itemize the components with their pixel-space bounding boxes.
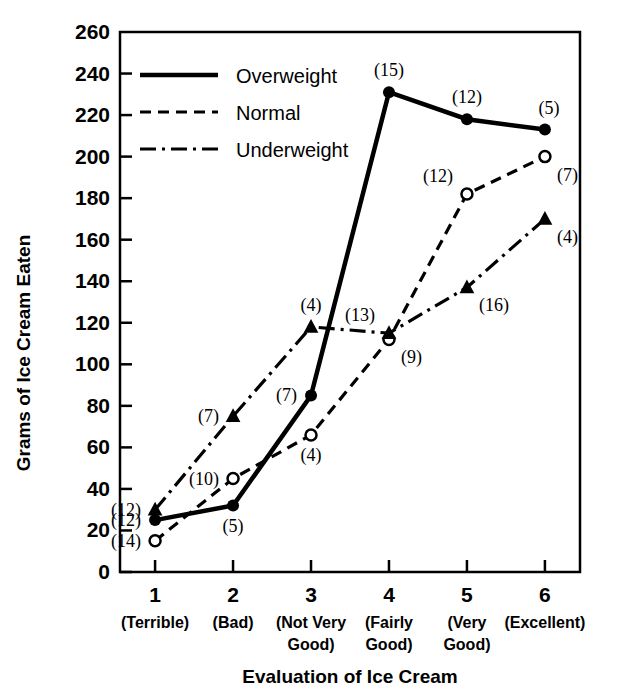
x-category-label: (Excellent) [504, 614, 585, 631]
data-point-label: (4) [557, 227, 578, 248]
y-tick-label: 40 [87, 477, 110, 500]
data-point-label: (5) [223, 516, 244, 537]
marker-open-circle [228, 473, 239, 484]
data-point-label: (16) [479, 295, 509, 316]
x-category-label: Good) [287, 636, 334, 653]
y-tick-label: 220 [75, 103, 110, 126]
x-axis-title: Evaluation of Ice Cream [242, 666, 457, 687]
legend-label-overweight: Overweight [236, 65, 338, 87]
legend-label-normal: Normal [236, 102, 300, 124]
x-category-label: Good) [365, 636, 412, 653]
marker-open-circle [306, 429, 317, 440]
series-line-underweight [155, 219, 545, 510]
y-tick-label: 140 [75, 269, 110, 292]
data-point-label: (7) [276, 385, 297, 406]
x-axis-category-labels: (Terrible)(Bad)(Not VeryGood)(FairlyGood… [121, 614, 585, 653]
marker-filled-circle [383, 86, 395, 98]
marker-filled-circle [149, 514, 161, 526]
data-point-label: (12) [111, 500, 141, 521]
data-point-label: (14) [111, 531, 141, 552]
data-point-label: (10) [189, 469, 219, 490]
data-point-label: (15) [374, 60, 404, 81]
x-axis-number-labels: 123456 [149, 583, 551, 606]
x-tick-label: 1 [149, 583, 161, 606]
data-point-label: (13) [345, 305, 375, 326]
marker-filled-circle [227, 500, 239, 512]
x-tick-label: 6 [539, 583, 551, 606]
y-axis-tick-labels: 020406080100120140160180200220240260 [75, 20, 110, 583]
y-tick-label: 260 [75, 20, 110, 43]
chart-canvas: 020406080100120140160180200220240260 123… [0, 0, 618, 695]
x-category-label: (Terrible) [121, 614, 189, 631]
marker-filled-circle [461, 113, 473, 125]
x-tick-label: 2 [227, 583, 239, 606]
y-tick-label: 60 [87, 435, 110, 458]
ice-cream-evaluation-chart: 020406080100120140160180200220240260 123… [0, 0, 618, 695]
y-tick-label: 100 [75, 352, 110, 375]
data-point-label: (7) [557, 165, 578, 186]
x-category-label: (Bad) [213, 614, 254, 631]
y-tick-label: 20 [87, 518, 110, 541]
data-point-label: (12) [452, 87, 482, 108]
plot-frame [120, 32, 580, 572]
y-axis-ticks [120, 74, 132, 572]
data-point-label: (12) [423, 166, 453, 187]
y-tick-label: 240 [75, 62, 110, 85]
x-axis-ticks [155, 560, 545, 572]
y-tick-label: 80 [87, 394, 110, 417]
x-category-label: (Fairly [365, 614, 413, 631]
legend: OverweightNormalUnderweight [140, 65, 349, 161]
y-tick-label: 200 [75, 145, 110, 168]
data-point-label: (9) [401, 347, 422, 368]
marker-open-circle [461, 189, 472, 200]
data-point-label: (5) [538, 98, 559, 119]
x-tick-label: 5 [461, 583, 473, 606]
marker-filled-circle [539, 124, 551, 136]
marker-open-circle [539, 151, 550, 162]
marker-filled-triangle [538, 211, 553, 225]
y-tick-label: 180 [75, 186, 110, 209]
x-category-label: (Not Very [276, 614, 346, 631]
data-point-label: (4) [301, 445, 322, 466]
data-point-label: (4) [301, 295, 322, 316]
x-tick-label: 3 [305, 583, 317, 606]
x-category-label: Good) [443, 636, 490, 653]
y-tick-label: 160 [75, 228, 110, 251]
data-point-label: (7) [198, 406, 219, 427]
x-tick-label: 4 [383, 583, 395, 606]
x-category-label: (Very [447, 614, 486, 631]
y-axis-title: Grams of Ice Cream Eaten [13, 235, 34, 472]
marker-filled-circle [305, 389, 317, 401]
y-tick-label: 120 [75, 311, 110, 334]
y-tick-label: 0 [98, 560, 110, 583]
marker-filled-triangle [304, 319, 319, 333]
legend-label-underweight: Underweight [236, 139, 349, 161]
marker-open-circle [150, 535, 161, 546]
